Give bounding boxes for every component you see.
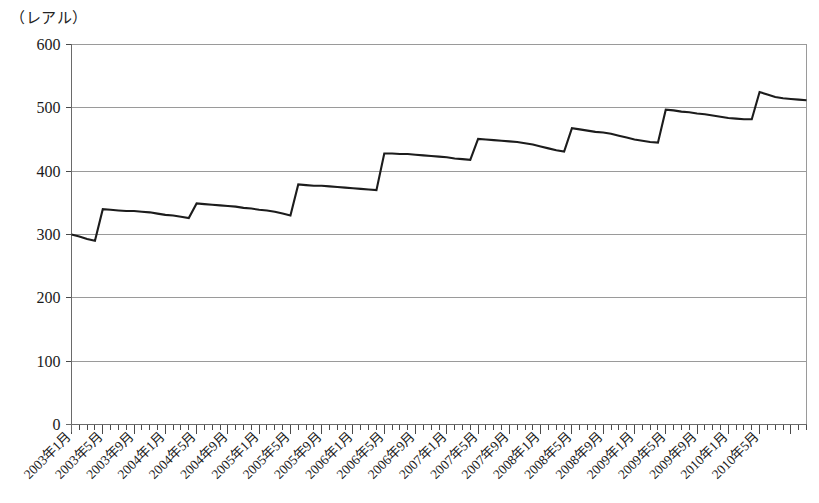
gridlines [72,45,807,362]
y-tick-label: 500 [37,99,61,116]
y-tick-label: 600 [37,36,61,53]
data-series [72,92,807,241]
y-tick-label: 300 [37,226,61,243]
y-tick-label: 0 [53,416,61,433]
axes [66,44,807,432]
y-tick-label: 200 [37,289,61,306]
y-axis-ticks: 0100200300400500600 [37,36,72,433]
y-tick-label: 400 [37,163,61,180]
y-tick-label: 100 [37,353,61,370]
minimum-wage-line [72,92,807,241]
chart-container: （レアル） 0100200300400500600 2003年1月2003年5月… [0,0,819,503]
x-axis-labels: 2003年1月2003年5月2003年9月2004年1月2004年5月2004年… [21,429,762,482]
line-chart-plot: 0100200300400500600 2003年1月2003年5月2003年9… [0,0,819,503]
